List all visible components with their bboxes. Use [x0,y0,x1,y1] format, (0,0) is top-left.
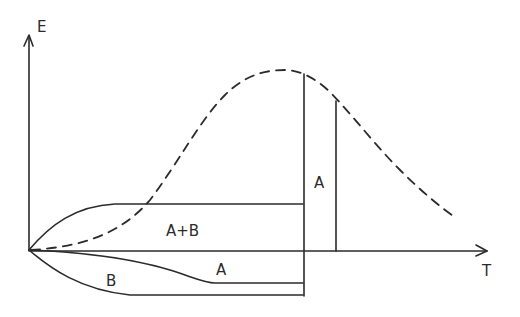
region-label-b: B [106,272,116,290]
region-label-a-lower: A [216,261,227,279]
energy-time-diagram: E T A+B A B A [0,0,520,317]
region-label-a-strip: A [314,174,325,192]
lower-outer-boundary-curve [29,250,303,295]
x-axis-label: T [481,262,492,280]
y-axis-label: E [37,18,46,36]
region-label-a-plus-b: A+B [166,222,199,240]
bell-curve-dashed [31,70,456,250]
